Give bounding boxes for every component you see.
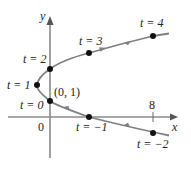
y-axis-arrow-icon bbox=[47, 16, 54, 25]
label-t-4: t = 4 bbox=[140, 16, 163, 30]
point-t-3 bbox=[86, 50, 92, 56]
label-t-2: t = 2 bbox=[23, 52, 46, 66]
parametric-curve-diagram: y x 0 8 (0, 1) t = 4 t = 3 t = 2 t = 1 t… bbox=[0, 0, 191, 169]
origin-label: 0 bbox=[38, 120, 44, 134]
label-t-1: t = 1 bbox=[7, 78, 30, 92]
y-axis-label: y bbox=[39, 9, 46, 23]
point-t-1 bbox=[34, 82, 40, 88]
x-axis-label: x bbox=[171, 120, 178, 134]
point-t-2 bbox=[47, 66, 53, 72]
y-axis bbox=[47, 16, 54, 158]
point-t-neg2 bbox=[150, 130, 156, 136]
label-t-3: t = 3 bbox=[79, 34, 102, 48]
point-t-4 bbox=[150, 33, 156, 39]
label-t-0: t = 0 bbox=[20, 98, 43, 112]
point-t-0 bbox=[47, 98, 53, 104]
label-t-neg2: t = −2 bbox=[137, 137, 169, 151]
label-t-neg1: t = −1 bbox=[76, 120, 108, 134]
point-label-0-1: (0, 1) bbox=[54, 85, 80, 99]
direction-arrow-icon bbox=[124, 41, 131, 45]
x-tick-label-8: 8 bbox=[149, 98, 155, 112]
